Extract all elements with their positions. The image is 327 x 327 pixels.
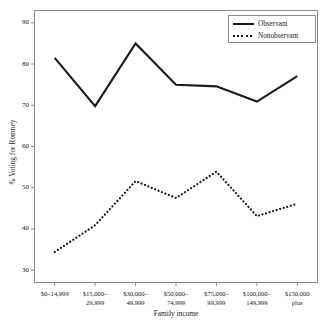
chart-plot-area xyxy=(0,0,327,327)
legend-entry-observant: Observant xyxy=(233,18,288,30)
y-tick-label: 40 xyxy=(7,224,29,232)
legend-entry-nonobservant: Nonobservant xyxy=(233,30,298,42)
series-line-observant xyxy=(55,43,298,106)
chart-legend: Observant Nonobservant xyxy=(228,15,316,43)
legend-swatch-solid-icon xyxy=(233,20,254,28)
y-axis-title: % Voting for Romney xyxy=(9,92,17,212)
plot-frame xyxy=(35,11,318,283)
x-tick-label-line1: $150,000 xyxy=(269,289,325,298)
x-tick-label: $150,000plus xyxy=(269,289,325,307)
legend-label-nonobservant: Nonobservant xyxy=(258,32,298,40)
chart-figure: 30405060708090 $0–14,999$15,000–29,999$3… xyxy=(0,0,327,327)
y-tick-label: 90 xyxy=(7,18,29,26)
series-lines xyxy=(55,43,298,252)
x-axis-ticks xyxy=(55,283,298,287)
legend-swatch-dotted-icon xyxy=(233,32,254,40)
x-tick-label-line2: plus xyxy=(269,298,325,307)
series-line-nonobservant xyxy=(55,172,298,252)
y-tick-label: 80 xyxy=(7,60,29,68)
legend-label-observant: Observant xyxy=(258,20,288,28)
y-axis-ticks xyxy=(31,23,35,270)
y-tick-label: 30 xyxy=(7,266,29,274)
x-axis-title: Family income xyxy=(34,309,318,318)
